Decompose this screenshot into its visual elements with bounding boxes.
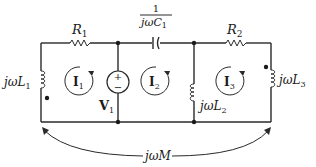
resistor-r2: R2	[226, 22, 246, 46]
arrowhead-icon	[164, 71, 170, 76]
l3-label: jωL3	[276, 73, 306, 89]
voltage-source-v1: + − V1	[98, 71, 129, 115]
node-bottom-2	[192, 120, 196, 124]
c1-denominator: jωC1	[138, 16, 167, 30]
v1-minus: −	[114, 82, 122, 93]
i1-label: I1	[73, 75, 84, 91]
dot-marker-l1	[45, 96, 49, 100]
l2-label: jωL2	[197, 99, 227, 115]
inductor-l1: jωL1	[1, 71, 49, 100]
r2-label: R2	[226, 22, 243, 39]
c1-numerator: 1	[153, 3, 159, 14]
inductor-l3: jωL3	[264, 65, 306, 89]
mutual-arc-left	[45, 131, 143, 156]
mutual-arc-right	[172, 131, 268, 156]
node-top-1	[116, 41, 120, 45]
mesh-current-i1: I1	[65, 67, 94, 95]
circuit-diagram: R1 1 jωC1 R2 jωL1 + − V1 jωL2 jωL3	[0, 0, 316, 167]
node-top-2	[192, 41, 196, 45]
inductor-l2: jωL2	[190, 84, 226, 115]
mesh-current-i2: I2	[141, 67, 170, 95]
inductor-l3-icon	[271, 70, 275, 87]
mesh-current-i3: I3	[216, 67, 245, 95]
v1-plus: +	[114, 71, 122, 82]
l1-label: jωL1	[1, 75, 31, 91]
dot-marker-l3	[264, 65, 268, 69]
r1-label: R1	[71, 22, 88, 39]
inductor-l1-icon	[41, 71, 45, 88]
capacitor-c1: 1 jωC1	[138, 3, 172, 49]
resistor-r2-icon	[226, 40, 246, 46]
node-bottom-1	[116, 120, 120, 124]
m-label: jωM	[142, 149, 172, 163]
arrowhead-icon	[239, 71, 245, 76]
mutual-inductance: jωM	[42, 127, 271, 163]
inductor-l2-icon	[190, 84, 194, 101]
resistor-r1-icon	[70, 40, 90, 46]
arrowhead-icon	[88, 71, 94, 76]
i2-label: I2	[149, 75, 160, 91]
capacitor-plate-right	[158, 37, 160, 49]
v1-label: V1	[98, 98, 114, 115]
resistor-r1: R1	[70, 22, 90, 46]
i3-label: I3	[224, 75, 235, 91]
